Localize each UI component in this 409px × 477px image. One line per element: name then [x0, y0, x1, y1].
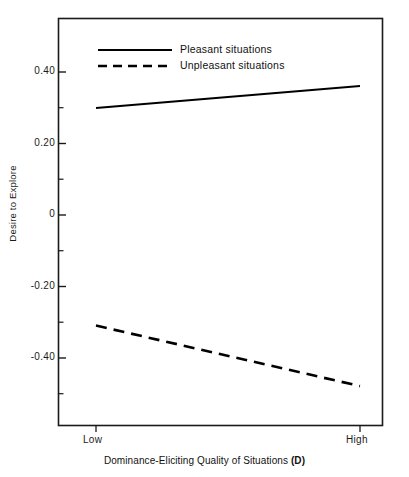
legend-label-pleasant: Pleasant situations — [180, 43, 272, 55]
chart-plot-area — [0, 0, 409, 477]
x-tick-label-low: Low — [83, 434, 102, 445]
y-tick-label--0.40: -0.40 — [9, 351, 55, 362]
y-axis-major-ticks — [59, 72, 67, 358]
legend-label-unpleasant: Unpleasant situations — [180, 59, 285, 71]
x-axis-title-text: Dominance-Eliciting Quality of Situation… — [104, 455, 291, 466]
series-line-unpleasant — [96, 326, 360, 387]
chart-figure: Pleasant situations Unpleasant situation… — [0, 0, 409, 477]
y-axis-title: Desire to Explore — [7, 144, 18, 264]
x-tick-label-high: High — [346, 434, 368, 445]
series-line-pleasant — [96, 86, 360, 108]
x-axis-ticks — [96, 426, 360, 433]
y-tick-label-0.40: 0.40 — [9, 65, 55, 76]
x-axis-title-symbol: (D) — [291, 455, 305, 466]
y-tick-label--0.20: -0.20 — [9, 280, 55, 291]
plot-frame — [59, 19, 383, 426]
x-axis-title: Dominance-Eliciting Quality of Situation… — [0, 455, 409, 466]
